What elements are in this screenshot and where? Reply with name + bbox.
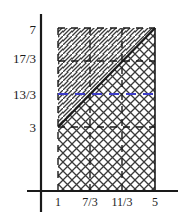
y-tick-label-17-3: 17/3 xyxy=(0,52,36,65)
figure-container: 7 17/3 13/3 3 1 7/3 11/3 5 xyxy=(0,0,182,224)
x-tick-label-7-3: 7/3 xyxy=(76,196,104,208)
y-tick-label-7: 7 xyxy=(0,23,36,36)
y-tick-label-3: 3 xyxy=(0,121,36,134)
x-tick-label-1: 1 xyxy=(48,196,68,208)
x-tick-label-5: 5 xyxy=(145,196,165,208)
y-tick-label-13-3: 13/3 xyxy=(0,88,36,101)
x-tick-label-11-3: 11/3 xyxy=(106,196,138,208)
